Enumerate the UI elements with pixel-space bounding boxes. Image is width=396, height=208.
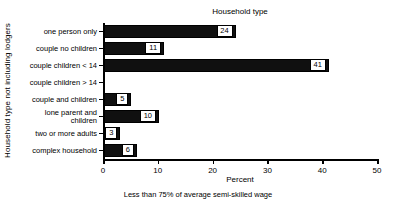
x-axis-tick xyxy=(267,159,269,164)
x-axis-tick xyxy=(103,159,105,164)
x-axis-tick-label: 50 xyxy=(362,166,392,175)
x-axis-tick xyxy=(158,159,160,164)
x-axis-tick-label: 40 xyxy=(307,166,337,175)
x-axis-title: Percent xyxy=(103,175,377,184)
y-axis-tick xyxy=(99,48,103,50)
bar-value-label: 5 xyxy=(116,93,128,105)
category-label: couple children < 14 xyxy=(30,61,97,70)
bar-value-label: 41 xyxy=(310,59,326,71)
y-axis-tick xyxy=(99,133,103,135)
category-label: one person only xyxy=(44,27,97,36)
x-axis-tick xyxy=(213,159,215,164)
x-axis-tick xyxy=(322,159,324,164)
y-axis-tick xyxy=(99,65,103,67)
y-axis-tick xyxy=(99,99,103,101)
bar-value-label: 24 xyxy=(217,25,233,37)
chart-caption: Less than 75% of average semi-skilled wa… xyxy=(0,190,396,199)
y-axis-tick xyxy=(99,82,103,84)
y-axis-title: Household type not including lodgers xyxy=(0,0,14,180)
bar-value-label: 11 xyxy=(145,42,161,54)
x-axis-line xyxy=(103,159,377,161)
y-axis-title-text: Household type not including lodgers xyxy=(3,23,12,158)
x-axis-tick-label: 10 xyxy=(143,166,173,175)
category-label: couple children > 14 xyxy=(30,78,97,87)
category-label: lone parent and children xyxy=(39,108,97,125)
category-label: complex household xyxy=(32,146,97,155)
bar-chart-figure: Household type not including lodgers Hou… xyxy=(0,0,396,208)
y-axis-tick xyxy=(99,31,103,33)
bar-value-label: 6 xyxy=(122,144,134,156)
bar-value-label: 3 xyxy=(105,127,117,139)
x-axis-tick-label: 0 xyxy=(88,166,118,175)
y-axis-tick xyxy=(99,116,103,118)
bar xyxy=(104,59,329,72)
category-label: couple no children xyxy=(36,44,97,53)
category-label: two or more adults xyxy=(35,129,97,138)
x-axis-tick-label: 20 xyxy=(198,166,228,175)
x-axis-tick xyxy=(377,159,379,164)
plot-area: one person only 24 couple no children 11… xyxy=(103,23,377,159)
y-axis-tick xyxy=(99,150,103,152)
bar-value-label: 10 xyxy=(140,110,156,122)
category-label: couple and children xyxy=(32,95,97,104)
x-axis-tick-label: 30 xyxy=(252,166,282,175)
chart-title: Household type xyxy=(103,7,377,16)
